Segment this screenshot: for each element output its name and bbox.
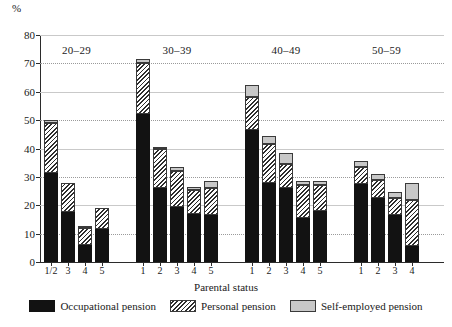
bar-stack	[371, 174, 385, 262]
gridline	[40, 92, 444, 94]
bar-segment-occupational	[44, 173, 58, 262]
bar-stack	[44, 120, 58, 262]
bar-segment-self-employed	[170, 167, 184, 171]
gridline	[40, 63, 444, 65]
gridline	[40, 35, 444, 37]
legend-item: Personal pension	[170, 300, 276, 312]
bar-stack	[78, 227, 92, 262]
bar-stack	[354, 161, 368, 262]
x-tick-mark	[68, 262, 69, 266]
gridline	[40, 149, 444, 151]
x-tick-mark	[85, 262, 86, 266]
x-tick-mark	[395, 262, 396, 266]
bar-segment-occupational	[204, 215, 218, 262]
bar-segment-occupational	[78, 245, 92, 262]
x-tick-mark	[177, 262, 178, 266]
legend-label: Occupational pension	[60, 300, 156, 312]
bar-segment-occupational	[61, 212, 75, 262]
x-tick-label: 2	[376, 265, 381, 276]
y-tick-label: 40	[24, 143, 35, 155]
bar-segment-personal	[354, 167, 368, 184]
bar-segment-personal	[44, 123, 58, 173]
bar-segment-occupational	[95, 229, 109, 262]
x-tick-mark	[211, 262, 212, 266]
x-tick-mark	[143, 262, 144, 266]
y-tick-mark	[36, 63, 40, 64]
bar-segment-personal	[78, 228, 92, 245]
bar-segment-occupational	[170, 207, 184, 262]
bar-segment-self-employed	[187, 187, 201, 190]
y-tick-mark	[36, 92, 40, 93]
y-tick-mark	[36, 149, 40, 150]
x-tick-mark	[361, 262, 362, 266]
bar-segment-occupational	[296, 218, 310, 262]
legend-label: Personal pension	[201, 300, 276, 312]
bar-stack	[245, 85, 259, 262]
group-label: 40–49	[272, 44, 301, 56]
bar-segment-self-employed	[279, 153, 293, 164]
bar-segment-personal	[95, 208, 109, 229]
x-tick-label: 1	[359, 265, 364, 276]
bar-segment-personal	[204, 188, 218, 215]
bar-segment-self-employed	[245, 85, 259, 98]
x-tick-mark	[252, 262, 253, 266]
y-tick-label: 0	[30, 256, 36, 268]
x-tick-mark	[194, 262, 195, 266]
x-tick-label: 3	[175, 265, 180, 276]
bar-stack	[153, 147, 167, 262]
y-tick-label: 80	[24, 29, 35, 41]
legend-label: Self-employed pension	[321, 300, 423, 312]
y-axis-unit-label: %	[12, 2, 21, 14]
x-tick-mark	[160, 262, 161, 266]
x-axis-title: Parental status	[0, 281, 452, 293]
group-label: 20–29	[62, 44, 91, 56]
bar-segment-personal	[313, 185, 327, 211]
x-tick-label: 4	[83, 265, 88, 276]
chart-figure: % 01020304050607080 20–2930–3940–4950–59…	[0, 0, 452, 327]
x-tick-label: 1	[141, 265, 146, 276]
x-tick-label: 4	[410, 265, 415, 276]
bar-stack	[262, 136, 276, 262]
bar-stack	[296, 181, 310, 262]
bar-segment-self-employed	[354, 161, 368, 167]
bar-stack	[136, 59, 150, 262]
bar-segment-self-employed	[313, 181, 327, 185]
x-tick-label: 4	[301, 265, 306, 276]
y-tick-label: 30	[24, 171, 35, 183]
bar-stack	[170, 167, 184, 262]
x-tick-label: 1/2	[45, 265, 58, 276]
bar-segment-occupational	[262, 183, 276, 262]
legend-swatch-personal	[170, 300, 196, 312]
bar-segment-personal	[136, 63, 150, 114]
bar-segment-self-employed	[78, 226, 92, 228]
bar-stack	[279, 153, 293, 262]
bar-segment-self-employed	[44, 120, 58, 123]
bar-segment-occupational	[245, 130, 259, 262]
bar-segment-occupational	[187, 214, 201, 262]
bar-segment-self-employed	[296, 181, 310, 185]
x-tick-mark	[51, 262, 52, 266]
bar-stack	[187, 187, 201, 262]
bar-segment-occupational	[136, 114, 150, 262]
x-axis-line	[40, 262, 444, 263]
x-tick-label: 4	[192, 265, 197, 276]
bar-segment-self-employed	[204, 181, 218, 188]
x-tick-mark	[102, 262, 103, 266]
chart-legend: Occupational pensionPersonal pensionSelf…	[0, 300, 452, 312]
plot-area: 01020304050607080	[40, 35, 444, 262]
x-tick-label: 5	[318, 265, 323, 276]
x-tick-label: 2	[158, 265, 163, 276]
x-tick-mark	[303, 262, 304, 266]
bar-stack	[388, 192, 402, 262]
y-tick-label: 10	[24, 228, 35, 240]
bar-stack	[405, 183, 419, 262]
bar-segment-self-employed	[388, 192, 402, 198]
x-tick-mark	[412, 262, 413, 266]
bar-segment-occupational	[371, 198, 385, 262]
legend-item: Self-employed pension	[290, 300, 423, 312]
gridline	[40, 120, 444, 122]
bar-segment-occupational	[153, 188, 167, 262]
bar-segment-personal	[279, 164, 293, 188]
legend-swatch-occupational	[29, 300, 55, 312]
group-label: 30–39	[163, 44, 192, 56]
